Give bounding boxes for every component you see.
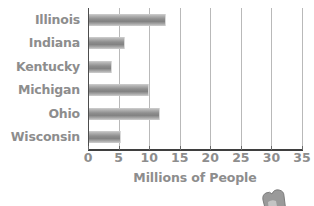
bar-ohio	[88, 108, 160, 120]
bar-kentucky	[88, 61, 112, 73]
x-axis-tick-label: 0	[84, 152, 93, 165]
y-axis-tick-label: Indiana	[0, 32, 84, 56]
bar-row	[88, 32, 302, 56]
y-axis-tick-label: Wisconsin	[0, 126, 84, 150]
y-axis-label-illinois: Illinois	[35, 14, 80, 27]
x-axis-tick-label: 35	[293, 152, 310, 165]
chart-screenshot: Illinois Indiana Kentucky Michigan Ohio …	[0, 0, 314, 206]
x-axis-tick-labels: 05101520253035	[88, 152, 302, 168]
bar-series	[88, 8, 302, 149]
plot-area	[88, 8, 302, 149]
x-axis-tick-label: 20	[202, 152, 219, 165]
y-axis-label-indiana: Indiana	[29, 37, 80, 50]
x-axis-tick-label: 10	[140, 152, 157, 165]
x-axis-tick-label: 5	[114, 152, 123, 165]
partial-shape-icon	[260, 186, 290, 206]
x-axis-tick-label: 15	[171, 152, 188, 165]
y-axis-line	[88, 8, 89, 150]
x-axis-title: Millions of People	[88, 170, 302, 185]
y-axis-label-wisconsin: Wisconsin	[11, 131, 80, 144]
bar-michigan	[88, 84, 149, 96]
x-axis-tick-label: 25	[232, 152, 249, 165]
bar-row	[88, 8, 302, 32]
bar-row	[88, 79, 302, 103]
bar-row	[88, 102, 302, 126]
gridline	[302, 8, 303, 149]
y-axis-tick-label: Ohio	[0, 102, 84, 126]
y-axis-tick-label: Kentucky	[0, 55, 84, 79]
x-axis-tick-label: 30	[263, 152, 280, 165]
y-axis-tick-label: Michigan	[0, 79, 84, 103]
y-axis-label-ohio: Ohio	[48, 108, 80, 121]
bar-illinois	[88, 14, 166, 26]
bar-row	[88, 55, 302, 79]
bar-wisconsin	[88, 131, 121, 143]
y-axis-label-michigan: Michigan	[18, 84, 80, 97]
y-axis-label-kentucky: Kentucky	[16, 61, 80, 74]
bar-indiana	[88, 37, 125, 49]
y-axis-tick-label: Illinois	[0, 8, 84, 32]
bar-row	[88, 126, 302, 150]
horizontal-bar-chart: Illinois Indiana Kentucky Michigan Ohio …	[0, 0, 314, 206]
y-axis-category-labels: Illinois Indiana Kentucky Michigan Ohio …	[0, 8, 84, 149]
